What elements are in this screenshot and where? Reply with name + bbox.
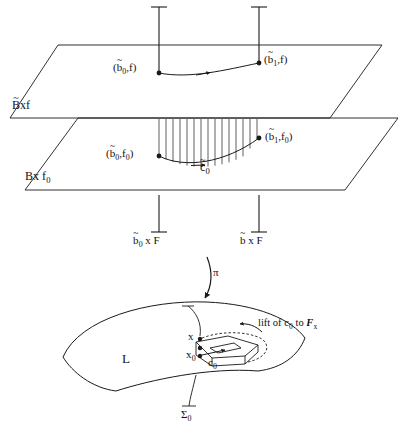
label-lift-annotation: lift of c0 to Fx <box>258 318 317 330</box>
label-base-curve-c0: c0 <box>208 357 217 371</box>
label-lower-plane-name: Bx f0 <box>25 170 51 185</box>
point-x0 <box>198 354 202 358</box>
lower-fiber-right-segment <box>251 195 267 232</box>
figure-canvas: (~b0,f) (~b1,f) ~Bxf (~b0,f0) (~b1,f0) ~… <box>0 0 415 441</box>
point-x <box>198 337 202 341</box>
label-lifted-curve-c0: ~c0 <box>200 161 210 176</box>
label-lower-right-point: (~b1,f0) <box>265 131 292 145</box>
label-upper-plane-name: ~Bxf <box>12 99 30 111</box>
hatching-region <box>159 119 257 167</box>
lower-fiber-left-segment <box>151 195 167 232</box>
label-lower-left-point: (~b0,f0) <box>106 148 133 162</box>
diagram-svg <box>0 0 415 441</box>
label-point-x: x <box>188 331 194 342</box>
label-fiber-left: ~b0 x F <box>133 235 160 249</box>
label-surface-L: L <box>122 352 130 365</box>
lower-plane-parallelogram <box>25 118 398 190</box>
label-sigma0: Σ0 <box>181 409 192 423</box>
base-surface-sigma0 <box>63 302 305 391</box>
point-x0-upper <box>198 346 202 350</box>
point-b1-tilde-f <box>257 61 262 66</box>
label-upper-right-point: (~b1,f) <box>264 54 287 68</box>
label-upper-left-point: (~b0,f) <box>113 62 136 76</box>
upper-fiber-left-segment <box>151 7 167 73</box>
label-point-x0: x0 <box>186 349 196 363</box>
upper-path-curve <box>159 63 259 75</box>
projection-arrow <box>205 257 211 298</box>
upper-plane-parallelogram <box>10 45 382 118</box>
leader-to-sigma0 <box>182 375 196 406</box>
point-b0-tilde-f <box>157 71 162 76</box>
label-projection-pi: π <box>213 267 219 278</box>
label-fiber-right: ~b x F <box>240 235 263 246</box>
